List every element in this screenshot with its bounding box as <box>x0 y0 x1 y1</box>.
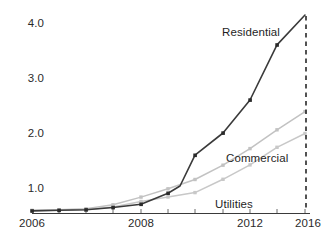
x-tick-label-2006: 2006 <box>9 217 55 229</box>
series-label-commercial: Commercial <box>226 152 288 164</box>
y-tick-label-1: 1.0 <box>10 182 44 194</box>
series-utilities <box>30 132 306 213</box>
y-tick-label-4: 4.0 <box>10 17 44 29</box>
series-label-residential: Residential <box>222 26 280 38</box>
series-residential <box>30 15 305 213</box>
chart-plot-area <box>0 0 336 245</box>
line-chart: 4.0 3.0 2.0 1.0 2006 2008 2012 2016 Resi… <box>0 0 336 245</box>
x-tick-label-2008: 2008 <box>118 217 164 229</box>
series-label-utilities: Utilities <box>215 198 253 210</box>
x-tick-label-2012: 2012 <box>227 217 273 229</box>
y-tick-label-2: 2.0 <box>10 127 44 139</box>
y-tick-label-3: 3.0 <box>10 72 44 84</box>
x-tick-label-2016: 2016 <box>285 217 331 229</box>
